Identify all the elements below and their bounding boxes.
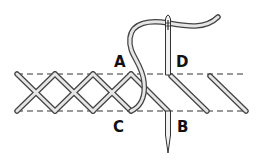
completed-stitches (17, 74, 246, 111)
label-a: A (114, 53, 126, 71)
label-b: B (177, 118, 188, 136)
needle-tip (166, 111, 171, 153)
label-c: C (113, 118, 124, 136)
needle (166, 15, 171, 153)
herringbone-stitch-diagram: A D C B (0, 0, 263, 160)
thread (130, 17, 218, 111)
label-d: D (176, 53, 188, 71)
